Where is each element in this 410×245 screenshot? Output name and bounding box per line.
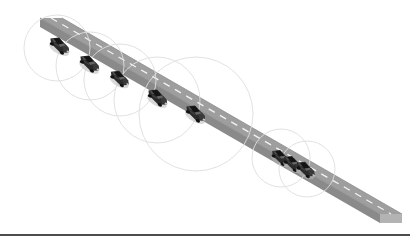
figure-root xyxy=(0,0,410,245)
road-scene-svg xyxy=(0,0,410,245)
road-right-cap xyxy=(380,214,402,223)
